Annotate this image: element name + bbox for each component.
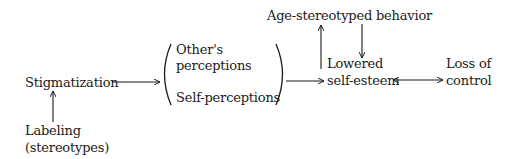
node-lowered-line1: Lowered [327,56,383,71]
node-labeling-line1: Labeling [25,123,81,138]
left-parenthesis [165,44,172,105]
node-age-stereotyped-behavior: Age-stereotyped behavior [267,8,432,23]
node-labeling-line2: (stereotypes) [25,140,109,155]
node-lowered-line2: self-esteem [327,73,399,88]
node-loss-of-control-line2: control [446,73,492,88]
node-others-perceptions-line2: perceptions [176,58,252,73]
node-others-perceptions-line1: Other's [176,42,223,57]
node-self-perceptions: Self-perceptions [176,90,280,105]
node-stigmatization: Stigmatization [25,75,118,90]
node-loss-of-control-line1: Loss of [446,56,491,71]
